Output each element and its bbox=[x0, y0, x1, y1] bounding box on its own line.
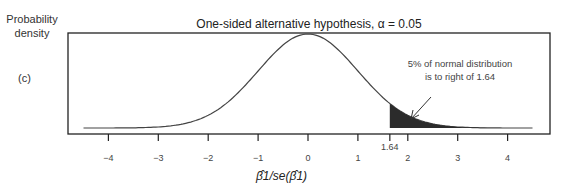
annotation-line1: 5% of normal distribution bbox=[400, 57, 520, 70]
annotation-text: 5% of normal distribution is to right of… bbox=[400, 57, 520, 83]
plot-area bbox=[0, 0, 562, 195]
shaded-tail-region bbox=[390, 104, 533, 129]
x-tick-label: 4 bbox=[505, 153, 510, 163]
plot-frame bbox=[68, 33, 550, 134]
x-tick-label: 3 bbox=[455, 153, 460, 163]
x-tick-label: 0 bbox=[305, 153, 310, 163]
x-tick-label: 2 bbox=[405, 153, 410, 163]
x-axis-label-text: β̂1/se(β̂1) bbox=[256, 169, 307, 183]
annotation-arrow bbox=[411, 97, 431, 119]
annotation-line2: is to right of 1.64 bbox=[400, 70, 520, 83]
x-tick-label: 1.64 bbox=[381, 142, 399, 152]
x-tick-label: −3 bbox=[153, 153, 163, 163]
x-tick-label: −2 bbox=[203, 153, 213, 163]
x-tick-label: 1 bbox=[355, 153, 360, 163]
x-axis-label: β̂1/se(β̂1) bbox=[256, 169, 307, 183]
x-axis-ticks bbox=[108, 134, 507, 141]
x-tick-label: −1 bbox=[253, 153, 263, 163]
x-tick-label: −4 bbox=[103, 153, 113, 163]
